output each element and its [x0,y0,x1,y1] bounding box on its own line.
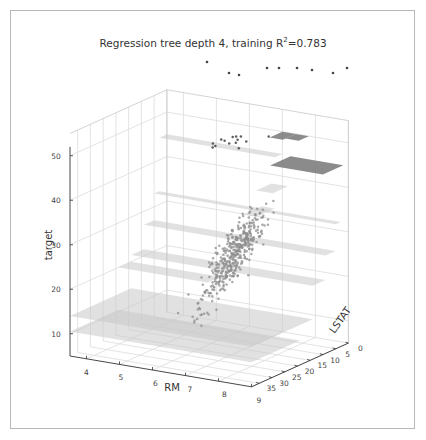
tick-label: 5 [345,350,350,359]
tick-label: 40 [51,196,61,205]
tick-label: 20 [305,367,315,376]
z-axis-label: target [43,230,54,260]
tick-label: 0 [358,344,363,353]
tick-label: 10 [51,330,61,339]
y-axis-label: LSTAT [327,304,353,335]
tick-label: 9 [257,396,262,405]
regression-plane [154,191,341,224]
x-axis-label: RM [164,382,180,393]
tick-label: 10 [330,356,340,365]
regression-planes [70,132,343,363]
tick-label: 5 [119,373,124,382]
tick-label: 15 [317,361,327,370]
tick-label: 4 [84,368,89,377]
regression-plane [159,134,282,157]
scatter-points [177,61,348,327]
regression-plane [270,156,343,174]
3d-plot-area: 102030405045678905101520253035 target RM… [0,0,426,440]
tick-label: 30 [279,379,289,388]
tick-label: 25 [292,373,302,382]
regression-plane [256,183,288,193]
tick-label: 7 [188,385,193,394]
tick-label: 35 [266,384,276,393]
tick-label: 20 [51,285,61,294]
tick-label: 8 [222,390,227,399]
tick-label: 6 [153,379,158,388]
tick-label: 50 [51,152,61,161]
